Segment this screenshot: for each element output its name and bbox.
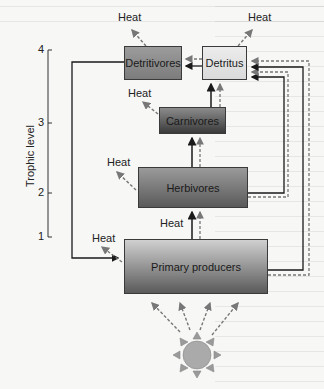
heat-label-herbivores: Heat (107, 156, 130, 168)
box-carnivores: Carnivores (159, 107, 226, 134)
box-label: Herbivores (166, 182, 219, 194)
axis-tick-2: 2 (38, 186, 44, 198)
axis-title: Trophic level (24, 116, 36, 196)
heat-label-producers: Heat (92, 232, 115, 244)
box-primary-producers: Primary producers (124, 239, 268, 294)
box-label: Primary producers (151, 261, 241, 273)
axis-tick-4: 4 (38, 43, 44, 55)
box-label: Detritivores (125, 57, 181, 69)
box-label: Detritus (206, 57, 244, 69)
axis-tick-1: 1 (38, 230, 44, 242)
heat-label-detritus: Heat (248, 11, 271, 23)
heat-label-herbivore-input: Heat (160, 217, 183, 229)
heat-label-detritivores: Heat (118, 11, 141, 23)
box-label: Carnivores (166, 115, 219, 127)
box-detritus: Detritus (202, 46, 247, 80)
trophic-axis (48, 50, 52, 237)
heat-label-carnivores: Heat (128, 87, 151, 99)
box-herbivores: Herbivores (138, 167, 248, 208)
sun-icon (173, 332, 221, 378)
axis-tick-3: 3 (38, 116, 44, 128)
box-detritivores: Detritivores (124, 46, 182, 80)
